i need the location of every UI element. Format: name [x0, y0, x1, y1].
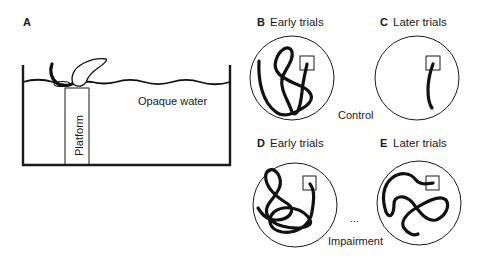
- opaque-water-label: Opaque water: [138, 95, 207, 107]
- panel-a-letter: A: [23, 16, 31, 28]
- panel-d-title: Early trials: [270, 137, 324, 149]
- panel-e: E Later trials: [377, 137, 461, 245]
- panel-e-title: Later trials: [393, 137, 447, 149]
- control-label: Control: [338, 109, 373, 121]
- impairment-label: Impairment: [328, 235, 383, 247]
- swim-path-b: [259, 48, 312, 115]
- panel-b-letter: B: [257, 16, 265, 28]
- panel-d-letter: D: [257, 137, 265, 149]
- panel-b-title: Early trials: [270, 16, 324, 28]
- morris-water-maze-figure: A Platform Opaque water B Early trials C…: [0, 0, 480, 260]
- panel-c: C Later trials: [375, 16, 459, 120]
- panel-b: B Early trials: [250, 16, 334, 120]
- swim-path-d: [258, 170, 314, 233]
- panel-d: D Early trials: [253, 137, 337, 247]
- pool-circle-c: [375, 36, 459, 120]
- swim-path-c: [428, 64, 433, 108]
- panel-c-title: Later trials: [393, 16, 447, 28]
- platform-label: Platform: [73, 115, 85, 156]
- panel-e-letter: E: [380, 137, 387, 149]
- swim-path-e: [384, 174, 448, 235]
- ellipsis: ...: [350, 212, 359, 224]
- panel-a: A Platform Opaque water: [23, 16, 230, 165]
- panel-c-letter: C: [380, 16, 388, 28]
